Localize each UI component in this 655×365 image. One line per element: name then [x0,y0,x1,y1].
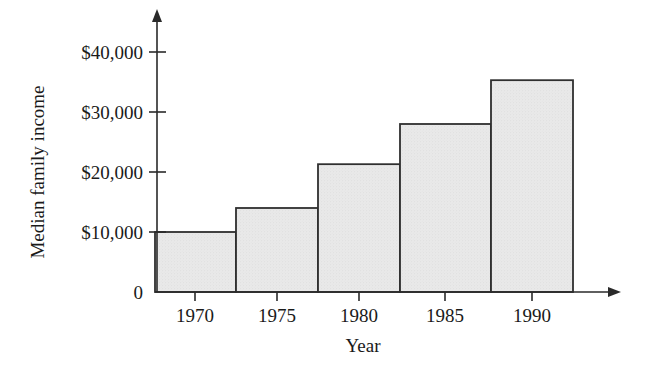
x-axis-title: Year [345,335,381,356]
x-tick-label-1980: 1980 [340,305,378,326]
x-tick-label-1975: 1975 [258,305,296,326]
x-tick-label-1985: 1985 [426,305,464,326]
bar-1980 [318,164,400,292]
y-tick-label-10000: $10,000 [81,222,143,243]
y-tick-label-20000: $20,000 [81,162,143,183]
chart-canvas: $40,000 $30,000 $20,000 $10,000 0 1970 1… [0,0,655,365]
x-axis-arrow-icon [608,287,621,297]
bar-1970 [155,232,236,292]
bar-1975 [236,208,318,292]
y-tick-label-0: 0 [134,282,144,303]
x-tick-label-1970: 1970 [176,305,214,326]
bar-chart-figure: $40,000 $30,000 $20,000 $10,000 0 1970 1… [0,0,655,365]
y-tick-label-30000: $30,000 [81,102,143,123]
x-tick-label-1990: 1990 [513,305,551,326]
y-axis-arrow-icon [152,9,162,22]
bars-group [155,80,573,292]
y-axis-title: Median family income [27,85,48,258]
y-tick-label-40000: $40,000 [81,42,143,63]
bar-1985 [400,124,491,292]
bar-1990 [491,80,573,292]
